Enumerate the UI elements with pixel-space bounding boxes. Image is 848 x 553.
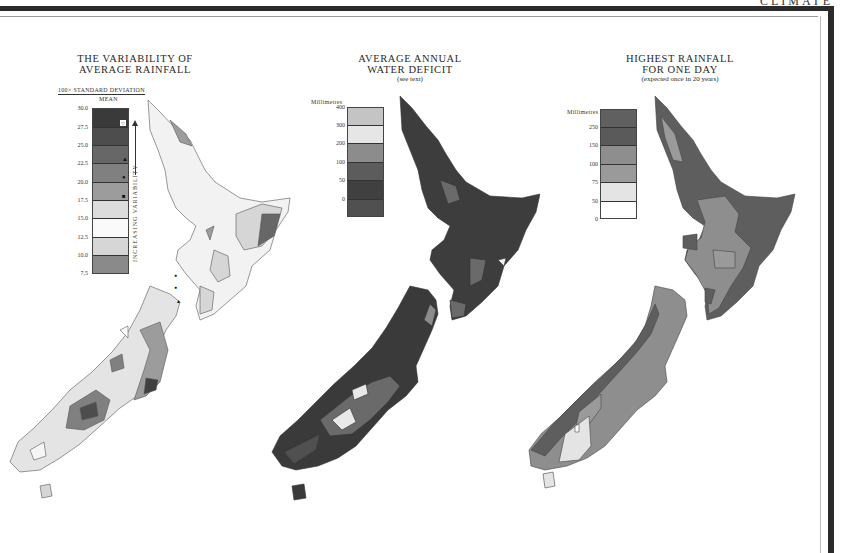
variability-title-line1: THE VARIABILITY OF [77,53,193,64]
water-deficit-map [260,90,540,510]
right-border-rule [828,6,834,553]
water-deficit-subtitle: (see text) [335,75,485,84]
highest-rainfall-subtitle: (expected once in 20 years) [605,75,755,84]
highest-rainfall-title-line2: FOR ONE DAY [642,64,718,75]
highest-rainfall-map [525,90,815,510]
water-deficit-title-line1: AVERAGE ANNUAL [358,53,462,64]
svg-text:▲: ▲ [176,299,181,304]
variability-title-line2: AVERAGE RAINFALL [79,64,191,75]
right-inner-rule [820,16,821,553]
top-border-rule [0,6,828,11]
variability-title: THE VARIABILITY OF AVERAGE RAINFALL [60,53,210,75]
water-deficit-title: AVERAGE ANNUAL WATER DEFICIT (see text) [335,53,485,84]
section-tag: CLIMATE [760,0,833,9]
water-deficit-title-line2: WATER DEFICIT [367,64,453,75]
svg-text:●: ● [174,285,177,290]
highest-rainfall-title: HIGHEST RAINFALL FOR ONE DAY (expected o… [605,53,755,84]
top-inner-rule [0,16,818,17]
variability-map: ● ● ▲ [0,90,300,510]
highest-rainfall-title-line1: HIGHEST RAINFALL [626,53,734,64]
svg-text:●: ● [174,273,177,278]
